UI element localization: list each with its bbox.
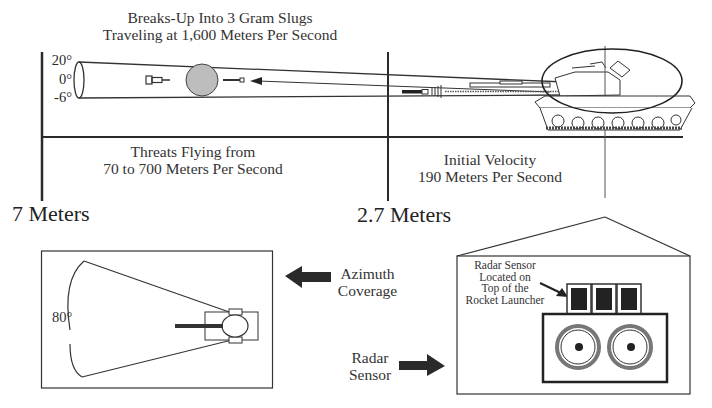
rocket-launcher-icon	[543, 314, 667, 382]
radar-detail-line1: Radar Sensor	[458, 260, 552, 272]
threats-label: Threats Flying from 70 to 700 Meters Per…	[58, 143, 328, 178]
radar-label-line1: Radar	[340, 349, 400, 366]
threats-label-line1: Threats Flying from	[58, 143, 328, 160]
projectile-icon	[223, 78, 244, 82]
radar-detail-label: Radar Sensor Located on Top of the Rocke…	[458, 260, 552, 307]
elevation-tick-20: 20°	[44, 52, 72, 69]
interceptor-fragment-cloud-icon	[186, 64, 218, 96]
initial-velocity-line1: Initial Velocity	[390, 151, 590, 168]
distance-far-label: 7 Meters	[12, 202, 90, 227]
radar-detail-line4: Rocket Launcher	[458, 295, 552, 307]
radar-sensor-icon	[567, 284, 641, 314]
radar-label-line2: Sensor	[340, 366, 400, 383]
distance-near-label: 2.7 Meters	[357, 203, 451, 228]
arrow-left-icon	[250, 77, 262, 85]
azimuth-coverage-panel	[42, 251, 273, 388]
radar-sensor-label: Radar Sensor	[340, 349, 400, 384]
top-title-line2: Traveling at 1,600 Meters Per Second	[70, 26, 370, 43]
azimuth-angle-label: 80°	[52, 309, 72, 325]
engagement-cone	[74, 62, 565, 98]
diagram-canvas	[0, 0, 712, 408]
azimuth-coverage-label: Azimuth Coverage	[330, 265, 405, 300]
azimuth-label-line2: Coverage	[330, 282, 405, 299]
arrow-left-icon	[285, 266, 331, 288]
elevation-tick-neg6: -6°	[44, 89, 72, 106]
azimuth-label-line1: Azimuth	[330, 265, 405, 282]
arrow-right-icon	[399, 354, 445, 376]
initial-velocity-line2: 190 Meters Per Second	[390, 168, 590, 185]
top-title-line1: Breaks-Up Into 3 Gram Slugs	[70, 9, 370, 26]
initial-velocity-label: Initial Velocity 190 Meters Per Second	[390, 151, 590, 186]
missile-icon	[146, 76, 170, 84]
top-title: Breaks-Up Into 3 Gram Slugs Traveling at…	[70, 9, 370, 44]
threats-label-line2: 70 to 700 Meters Per Second	[58, 160, 328, 177]
elevation-tick-0: 0°	[44, 71, 72, 88]
